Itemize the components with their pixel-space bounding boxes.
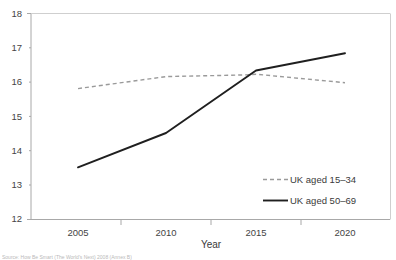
line-chart: 18 17 16 15 14 13 12 2005 2010 2015 2020… xyxy=(0,0,396,260)
series-line-uk-50-69 xyxy=(78,53,345,167)
x-tick-label-2015: 2015 xyxy=(236,227,276,238)
y-tick-marks xyxy=(27,14,31,220)
y-tick-label-16: 16 xyxy=(2,77,22,87)
x-axis-title: Year xyxy=(181,239,241,251)
y-tick-label-17: 17 xyxy=(2,43,22,53)
source-caption: Source: How Be Smart (The World's Next) … xyxy=(2,254,132,260)
chart-canvas xyxy=(0,0,396,260)
x-tick-label-2010: 2010 xyxy=(146,227,186,238)
legend-label-uk-15-34: UK aged 15–34 xyxy=(290,174,356,185)
y-tick-label-18: 18 xyxy=(2,9,22,19)
y-tick-label-14: 14 xyxy=(2,146,22,156)
x-tick-label-2005: 2005 xyxy=(58,227,98,238)
y-tick-label-12: 12 xyxy=(2,214,22,224)
x-tick-label-2020: 2020 xyxy=(325,227,365,238)
y-tick-label-13: 13 xyxy=(2,180,22,190)
legend-label-uk-50-69: UK aged 50–69 xyxy=(290,195,356,206)
series-line-uk-15-34 xyxy=(78,74,345,88)
y-tick-label-15: 15 xyxy=(2,112,22,122)
x-tick-marks xyxy=(121,220,301,226)
